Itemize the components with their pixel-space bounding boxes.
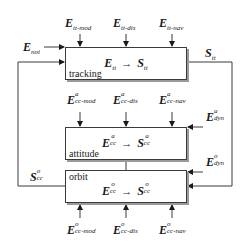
symbol-sub: dyn — [214, 115, 224, 122]
symbol-sub: tt-mod — [73, 24, 91, 32]
attitude-eq-input-sub: cc — [110, 140, 116, 147]
symbol-sub: cc-dis — [121, 228, 138, 235]
symbol-sub: cc-nav — [167, 228, 186, 235]
symbol-base: E — [206, 155, 214, 169]
orbit-input-nav: Eocc-nav — [159, 224, 186, 238]
orbit-label: orbit — [69, 171, 88, 182]
symbol-base: E — [113, 16, 121, 30]
symbol-base: E — [67, 93, 75, 107]
orbit-block: orbit Eocc → Socc — [65, 170, 187, 203]
tracking-input-nav: Ett-nav — [159, 17, 183, 31]
arrow-icon: → — [119, 185, 134, 197]
tracking-label: tracking — [69, 68, 102, 79]
orbit-eq-input-sub: cc — [110, 188, 116, 195]
symbol-sub: cc-mod — [75, 228, 96, 235]
symbol-base: E — [159, 16, 167, 30]
tracking-eq-input-sub: tt — [112, 64, 116, 72]
symbol-sub: dyn — [214, 160, 224, 167]
tracking-eq-output: S — [137, 56, 144, 70]
tracking-input-dis: Ett-dis — [113, 17, 135, 31]
orbit-dynamics-input: Eodyn — [206, 156, 224, 170]
symbol-sub: tt-dis — [121, 24, 135, 32]
orbit-input-mod: Eocc-mod — [67, 224, 96, 238]
symbol-sub: cc-dis — [121, 98, 138, 105]
orbit-eq-input: E — [102, 184, 110, 198]
symbol-base: E — [159, 223, 167, 237]
symbol-base: E — [65, 16, 73, 30]
attitude-block: Eacc → Sacc attitude — [65, 127, 187, 160]
symbol-base: E — [159, 93, 167, 107]
orbit-input-dis: Eocc-dis — [113, 224, 138, 238]
attitude-eq-input: E — [102, 136, 110, 150]
attitude-input-nav: Eacc-nav — [159, 94, 186, 108]
orbit-feedback-signal: Socc — [30, 171, 43, 185]
symbol-sub: noi — [31, 48, 40, 56]
arrow-icon: → — [119, 57, 134, 69]
tracking-input-mod: Ett-mod — [65, 17, 91, 31]
attitude-dynamics-input: Eadyn — [206, 111, 224, 125]
symbol-sub: cc-mod — [75, 98, 96, 105]
noise-input: Enoi — [23, 41, 40, 55]
symbol-base: E — [113, 93, 121, 107]
symbol-base: E — [206, 110, 214, 124]
symbol-sub: cc — [37, 175, 43, 182]
symbol-sub: tt-nav — [167, 24, 183, 32]
tracking-eq-output-sub: tt — [144, 64, 148, 72]
orbit-equation: Eocc → Socc — [66, 184, 186, 199]
symbol-sub: tt — [212, 54, 216, 62]
tracking-block: Ett → Stt tracking — [65, 47, 187, 80]
symbol-base: E — [113, 223, 121, 237]
attitude-input-mod: Eacc-mod — [67, 94, 96, 108]
symbol-base: S — [205, 46, 212, 60]
attitude-eq-output: S — [137, 136, 144, 150]
tracking-output-signal: Stt — [205, 47, 216, 61]
symbol-sub: cc-nav — [167, 98, 186, 105]
attitude-input-dis: Eacc-dis — [113, 94, 138, 108]
symbol-base: E — [23, 40, 31, 54]
symbol-base: E — [67, 223, 75, 237]
arrow-icon: → — [119, 137, 134, 149]
attitude-label: attitude — [69, 148, 99, 159]
symbol-base: S — [30, 170, 37, 184]
attitude-eq-output-sub: cc — [144, 140, 150, 147]
orbit-eq-output: S — [137, 184, 144, 198]
orbit-eq-output-sub: cc — [144, 188, 150, 195]
